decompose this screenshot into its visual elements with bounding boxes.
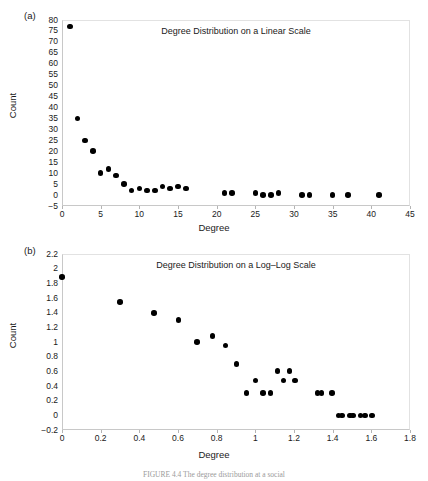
x-tick-mark — [255, 206, 256, 209]
x-tick-mark — [333, 430, 334, 433]
y-tick-label: −0.2 — [32, 426, 58, 435]
x-tick-label: 0.6 — [166, 434, 190, 443]
data-point — [362, 413, 368, 419]
figure-caption: FIGURE 4.4 The degree distribution at a … — [0, 470, 428, 479]
x-tick-label: 25 — [243, 210, 267, 219]
y-tick-label: 0 — [32, 411, 58, 420]
x-tick-mark — [255, 430, 256, 433]
x-tick-label: 20 — [205, 210, 229, 219]
y-tick-label: 65 — [32, 48, 58, 57]
data-point — [151, 310, 157, 316]
y-tick-label: 0.4 — [32, 382, 58, 391]
data-point — [350, 413, 356, 419]
x-tick-mark — [333, 206, 334, 209]
x-tick-mark — [62, 206, 63, 209]
x-tick-mark — [101, 430, 102, 433]
y-tick-label: 1.4 — [32, 308, 58, 317]
figure-degree-distribution: (a) Count Degree Distribution on a Linea… — [0, 0, 428, 481]
y-tick-label: 0 — [32, 191, 58, 200]
y-tick-label: 70 — [32, 37, 58, 46]
x-tick-mark — [410, 206, 411, 209]
x-tick-label: 1 — [243, 434, 267, 443]
y-tick-label: 0.8 — [32, 352, 58, 361]
panel-b-y-axis-title: Count — [7, 311, 18, 361]
data-point — [121, 181, 127, 187]
data-point — [183, 186, 189, 192]
y-tick-label: 45 — [32, 92, 58, 101]
y-tick-label: 50 — [32, 81, 58, 90]
x-tick-label: 1.6 — [359, 434, 383, 443]
data-point — [175, 184, 181, 190]
x-tick-mark — [294, 430, 295, 433]
data-point — [376, 192, 382, 198]
y-tick-label: 60 — [32, 59, 58, 68]
y-tick-label: 0.2 — [32, 396, 58, 405]
y-tick-label: 15 — [32, 158, 58, 167]
y-tick-label: 1.2 — [32, 323, 58, 332]
x-tick-label: 5 — [89, 210, 113, 219]
y-tick-label: 1.6 — [32, 294, 58, 303]
x-tick-mark — [178, 206, 179, 209]
data-point — [82, 138, 88, 144]
x-tick-label: 0.4 — [127, 434, 151, 443]
y-tick-label: −5 — [32, 202, 58, 211]
panel-b-plot-area — [62, 254, 410, 430]
x-tick-mark — [139, 430, 140, 433]
y-tick-label: 10 — [32, 169, 58, 178]
x-tick-label: 1.8 — [398, 434, 422, 443]
y-tick-label: 80 — [32, 16, 58, 25]
y-tick-label: 40 — [32, 103, 58, 112]
x-tick-label: 15 — [166, 210, 190, 219]
panel-a-x-axis-title: Degree — [0, 222, 428, 233]
y-tick-label: 25 — [32, 136, 58, 145]
x-tick-label: 1.2 — [282, 434, 306, 443]
x-tick-label: 1.4 — [321, 434, 345, 443]
data-point — [287, 368, 293, 374]
panel-a-y-axis-title: Count — [7, 81, 18, 131]
data-point — [299, 192, 305, 198]
data-point — [260, 192, 266, 198]
data-point — [268, 192, 274, 198]
data-point — [369, 413, 375, 419]
x-tick-label: 30 — [282, 210, 306, 219]
data-point — [307, 192, 313, 198]
data-point — [90, 148, 96, 154]
data-point — [113, 173, 119, 179]
data-point — [176, 317, 182, 323]
x-tick-mark — [217, 206, 218, 209]
data-point — [345, 192, 351, 198]
panel-a-title: Degree Distribution on a Linear Scale — [62, 26, 410, 36]
x-tick-mark — [294, 206, 295, 209]
x-tick-label: 0 — [50, 210, 74, 219]
panel-b-loglog-scale: (b) Count Degree Distribution on a Log–L… — [0, 238, 428, 463]
y-tick-label: 1.8 — [32, 279, 58, 288]
y-tick-label: 30 — [32, 125, 58, 134]
x-tick-mark — [62, 430, 63, 433]
x-tick-mark — [139, 206, 140, 209]
y-tick-label: 55 — [32, 70, 58, 79]
x-tick-label: 0.2 — [89, 434, 113, 443]
data-point — [276, 190, 282, 196]
data-point — [210, 333, 216, 339]
data-point — [339, 413, 345, 419]
y-tick-label: 5 — [32, 180, 58, 189]
x-tick-label: 0 — [50, 434, 74, 443]
x-tick-label: 45 — [398, 210, 422, 219]
panel-a-plot-area — [62, 20, 410, 206]
panel-b-x-axis-title: Degree — [0, 449, 428, 460]
data-point — [229, 190, 235, 196]
y-tick-label: 1 — [32, 338, 58, 347]
data-point — [275, 368, 281, 374]
y-tick-label: 35 — [32, 114, 58, 123]
y-tick-label: 20 — [32, 147, 58, 156]
panel-a-linear-scale: (a) Count Degree Distribution on a Linea… — [0, 0, 428, 238]
x-tick-label: 40 — [359, 210, 383, 219]
x-tick-mark — [217, 430, 218, 433]
x-tick-mark — [178, 430, 179, 433]
data-point — [292, 378, 298, 384]
data-point — [106, 166, 112, 172]
x-tick-mark — [371, 206, 372, 209]
data-point — [59, 274, 65, 280]
y-tick-label: 75 — [32, 26, 58, 35]
data-point — [117, 299, 123, 305]
